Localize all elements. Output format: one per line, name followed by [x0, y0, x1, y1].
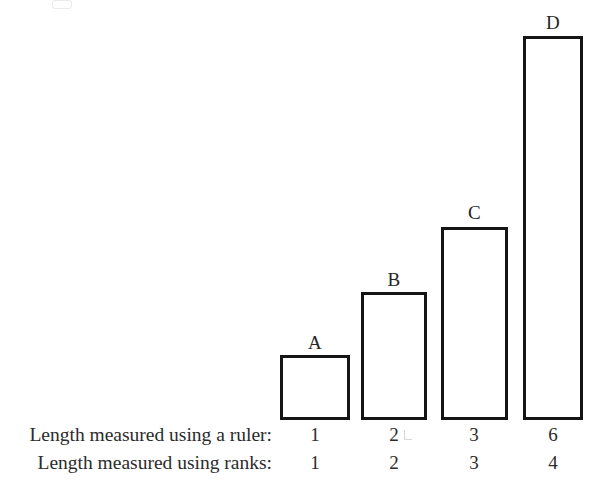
bar-chart-plot-area: A B C D — [0, 0, 594, 425]
bar-label-b: B — [361, 270, 427, 289]
row-length-ranks: Length measured using ranks: 1 2 3 4 — [0, 451, 594, 475]
rank-value-b: 2 — [371, 451, 417, 475]
row-label-ranks: Length measured using ranks: — [38, 451, 273, 475]
ruler-value-a: 1 — [292, 423, 338, 447]
bar-label-a: A — [280, 333, 350, 352]
bar-a — [280, 355, 350, 420]
rank-value-c: 3 — [451, 451, 497, 475]
rank-value-a: 1 — [292, 451, 338, 475]
bar-b — [361, 292, 427, 420]
ruler-value-d: 6 — [530, 423, 576, 447]
row-label-ruler: Length measured using a ruler: — [29, 423, 272, 447]
figure-root: A B C D Length measured using a ruler: 1… — [0, 0, 594, 487]
rank-value-d: 4 — [530, 451, 576, 475]
scan-artifact-secondary-icon — [404, 430, 412, 440]
bar-label-d: D — [523, 13, 583, 32]
row-length-ruler: Length measured using a ruler: 1 2 3 6 — [0, 423, 594, 447]
bar-label-c: C — [441, 203, 508, 222]
ruler-value-c: 3 — [451, 423, 497, 447]
bar-c — [441, 227, 508, 420]
bar-d — [523, 36, 583, 420]
